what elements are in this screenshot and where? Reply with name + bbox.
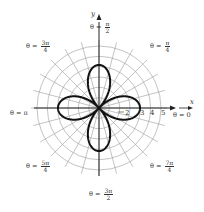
angle-label-5pi-4: θ = 5π4	[26, 160, 50, 173]
radial-tick-4: 4	[150, 109, 154, 117]
angle-label-pi: θ = π	[10, 110, 28, 117]
theta-zero-arrow-icon	[188, 106, 193, 110]
y-axis-arrow-icon	[97, 14, 102, 20]
axes	[34, 14, 193, 176]
angle-label-7pi-4: θ = 7π4	[150, 160, 174, 173]
radial-tick-3: 3	[140, 109, 144, 117]
angle-label-pi-2: θ = π2	[90, 21, 110, 34]
radial-tick-2: 2	[125, 109, 129, 117]
y-axis-label: y	[91, 10, 95, 18]
angle-label-3pi-4: θ = 3π4	[26, 40, 50, 53]
x-axis-arrow-icon	[170, 106, 176, 111]
angle-label-0: θ = 0	[173, 112, 191, 119]
angle-label-pi-4: θ = π4	[150, 40, 170, 53]
x-axis-label: x	[190, 98, 194, 106]
radial-tick-5: 5	[161, 109, 165, 117]
angle-label-3pi-2: θ = 3π2	[89, 188, 113, 201]
